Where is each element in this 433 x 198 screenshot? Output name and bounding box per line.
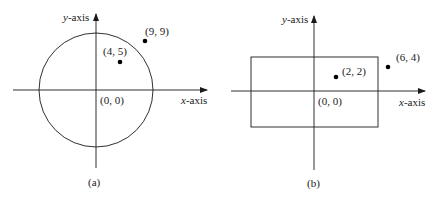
panel-a: (4, 5) (9, 9) (0, 0) x-axis y-axis (a): [13, 11, 207, 189]
x-axis-label: x-axis: [180, 94, 207, 106]
point-outside: [386, 65, 391, 70]
point-label-9-9: (9, 9): [145, 25, 169, 38]
diagram-canvas: (4, 5) (9, 9) (0, 0) x-axis y-axis (a) (…: [0, 0, 433, 198]
point-outside: [143, 39, 148, 44]
point-label-6-4: (6, 4): [396, 51, 420, 64]
point-inside: [118, 60, 123, 65]
origin-label: (0, 0): [318, 95, 342, 108]
panel-b: (2, 2) (6, 4) (0, 0) x-axis y-axis (b): [231, 13, 425, 190]
caption-a: (a): [88, 176, 101, 189]
point-label-2-2: (2, 2): [342, 65, 366, 78]
point-inside: [334, 75, 339, 80]
point-label-4-5: (4, 5): [103, 45, 127, 58]
x-axis-label: x-axis: [398, 96, 425, 108]
y-axis-label: y-axis: [62, 11, 89, 23]
y-axis-label: y-axis: [281, 13, 308, 25]
origin-label: (0, 0): [100, 94, 124, 107]
caption-b: (b): [307, 177, 320, 190]
